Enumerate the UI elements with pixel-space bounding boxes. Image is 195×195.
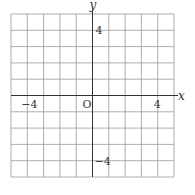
coordinate-plane: x y O −444−4 bbox=[0, 0, 195, 195]
x-axis-label: x bbox=[178, 89, 185, 103]
y-tick-label: −4 bbox=[95, 155, 111, 168]
origin-label: O bbox=[83, 98, 92, 111]
y-axis-label: y bbox=[89, 0, 97, 12]
x-tick-label: −4 bbox=[21, 98, 37, 111]
x-tick-label: 4 bbox=[154, 98, 161, 111]
y-tick-label: 4 bbox=[96, 24, 103, 37]
